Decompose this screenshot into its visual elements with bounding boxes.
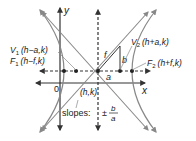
origin-label: 0 [54,84,59,94]
center-point [96,69,100,73]
focus-2-leader [132,63,146,70]
slopes-denominator: a [111,114,116,123]
vertex-1-label: V1(h−a,k) [10,45,48,56]
center-label: (h,k) [80,87,97,97]
label-f: f [104,50,108,60]
y-axis-label: y [63,5,70,16]
slopes-pm: ± [102,108,107,118]
segment-f [98,46,120,71]
slopes-label: slopes: [62,108,91,118]
hyperbola-diagram: y x 0 f b a (h,k) V1(h−a,k) F1(h−f,k) V2… [0,0,196,141]
label-a: a [106,72,111,82]
focus-1-label: F1(h−f,k) [10,56,45,67]
label-b: b [122,55,127,65]
vertex-2-label: V2(h+a,k) [131,37,169,48]
x-axis-label: x [141,85,148,96]
slopes-numerator: b [111,104,116,113]
vertex-1-leader [58,52,76,70]
slopes-leader [76,100,78,108]
focus-1-point [62,69,66,73]
focus-2-label: F2(h+f,k) [147,58,182,69]
